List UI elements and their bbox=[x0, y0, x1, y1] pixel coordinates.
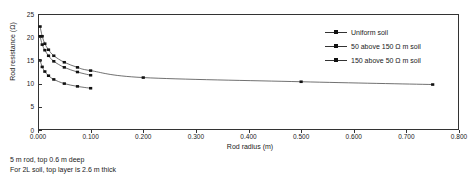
figure-rod-resistance-chart: 0510152025 0.0000.1000.2000.3000.4000.50… bbox=[0, 0, 475, 189]
legend-item: Uniform soil bbox=[325, 25, 421, 39]
legend-line-marker-icon bbox=[325, 55, 347, 65]
x-tick-mark bbox=[196, 130, 197, 133]
x-tick-label: 0.400 bbox=[229, 133, 269, 140]
chart-legend: Uniform soil 50 above 150 Ω m soil 150 a… bbox=[325, 25, 421, 67]
legend-item-label: 50 above 150 Ω m soil bbox=[351, 43, 421, 50]
x-tick-label: 0.800 bbox=[439, 133, 475, 140]
x-tick-mark bbox=[249, 130, 250, 133]
caption-line-1: 5 m rod, top 0.6 m deep bbox=[10, 155, 116, 165]
x-tick-mark bbox=[91, 130, 92, 133]
y-tick-label: 5 bbox=[12, 103, 34, 110]
legend-item-label: 150 above 50 Ω m soil bbox=[351, 57, 421, 64]
y-tick-mark bbox=[38, 84, 42, 85]
x-tick-label: 0.200 bbox=[123, 133, 163, 140]
figure-caption: 5 m rod, top 0.6 m deep For 2L soil, top… bbox=[10, 155, 116, 175]
y-tick-mark bbox=[38, 14, 42, 15]
legend-item-label: Uniform soil bbox=[351, 29, 388, 36]
x-tick-label: 0.600 bbox=[334, 133, 374, 140]
x-axis-title: Rod radius (m) bbox=[160, 143, 340, 150]
legend-item: 50 above 150 Ω m soil bbox=[325, 39, 421, 53]
legend-item: 150 above 50 Ω m soil bbox=[325, 53, 421, 67]
x-tick-mark bbox=[143, 130, 144, 133]
y-axis-title: Rod resistance (Ω) bbox=[9, 7, 16, 97]
y-tick-mark bbox=[38, 107, 42, 108]
x-tick-mark bbox=[301, 130, 302, 133]
x-tick-label: 0.500 bbox=[281, 133, 321, 140]
legend-line-marker-icon bbox=[325, 41, 347, 51]
caption-line-2: For 2L soil, top layer is 2.6 m thick bbox=[10, 165, 116, 175]
x-tick-label: 0.300 bbox=[176, 133, 216, 140]
y-tick-mark bbox=[38, 60, 42, 61]
y-tick-mark bbox=[38, 37, 42, 38]
x-tick-label: 0.700 bbox=[386, 133, 426, 140]
x-tick-label: 0.000 bbox=[18, 133, 58, 140]
x-tick-mark bbox=[406, 130, 407, 133]
x-tick-label: 0.100 bbox=[71, 133, 111, 140]
legend-line-marker-icon bbox=[325, 27, 347, 37]
x-tick-mark bbox=[354, 130, 355, 133]
x-tick-mark bbox=[38, 130, 39, 133]
x-tick-mark bbox=[459, 130, 460, 133]
